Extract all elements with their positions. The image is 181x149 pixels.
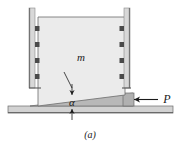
figure-canvas: m: [0, 0, 181, 149]
left-bearing-2: [35, 42, 40, 47]
ground-surface: [8, 106, 173, 113]
left-bearing-4: [35, 74, 40, 79]
applied-force-P: P: [134, 92, 171, 106]
figure-caption: (a): [84, 129, 96, 141]
right-bearing-3: [120, 58, 125, 63]
force-label: P: [162, 92, 171, 106]
mass-label: m: [77, 51, 85, 63]
left-bearing-1: [35, 26, 40, 31]
right-bearing-2: [120, 42, 125, 47]
left-bearing-3: [35, 58, 40, 63]
mechanics-figure: m: [0, 0, 181, 149]
angle-label: α: [69, 96, 75, 108]
right-bearing-4: [120, 74, 125, 79]
right-bearing-1: [120, 26, 125, 31]
block-mass-m: m: [38, 17, 125, 106]
ground-slab: [8, 106, 173, 113]
